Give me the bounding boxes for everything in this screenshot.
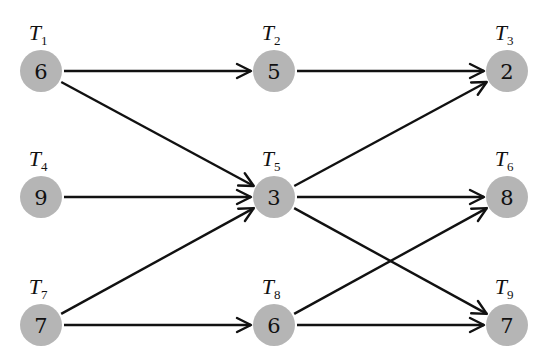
node-weight: 6	[267, 314, 280, 338]
node-label: T3	[495, 20, 514, 48]
node-t2: 5T2	[253, 20, 295, 92]
node-t5: 3T5	[253, 146, 295, 218]
node-label: T9	[495, 274, 514, 302]
edge-t1-t2	[64, 64, 251, 78]
node-label: T2	[262, 20, 281, 48]
node-weight: 7	[34, 314, 47, 338]
node-label: T7	[29, 274, 48, 302]
nodes-layer: 6T15T22T39T43T58T67T76T87T9	[20, 20, 528, 346]
node-label: T4	[29, 146, 48, 174]
node-t1: 6T1	[20, 20, 62, 92]
node-weight: 9	[34, 186, 47, 210]
edge-t4-t5	[64, 190, 251, 204]
node-label: T8	[262, 274, 281, 302]
node-t8: 6T8	[253, 274, 295, 346]
node-label: T1	[29, 20, 48, 48]
node-weight: 5	[267, 60, 280, 84]
edge-t8-t9	[297, 318, 484, 332]
node-t4: 9T4	[20, 146, 62, 218]
node-label: T6	[495, 146, 514, 174]
node-weight: 7	[500, 314, 513, 338]
edge-t7-t8	[64, 318, 251, 332]
node-weight: 2	[500, 60, 513, 84]
edge-t5-t6	[297, 190, 484, 204]
node-weight: 3	[267, 186, 280, 210]
edge-t7-t5	[61, 208, 254, 314]
node-t6: 8T6	[486, 146, 528, 218]
edge-t5-t3	[294, 82, 487, 186]
node-t7: 7T7	[20, 274, 62, 346]
task-graph: 6T15T22T39T43T58T67T76T87T9	[0, 0, 546, 357]
edge-line	[61, 208, 254, 314]
edge-t1-t5	[61, 82, 254, 186]
node-weight: 6	[34, 60, 47, 84]
node-t9: 7T9	[486, 274, 528, 346]
node-t3: 2T3	[486, 20, 528, 92]
edge-line	[61, 82, 254, 186]
edge-line	[294, 82, 487, 186]
node-weight: 8	[500, 186, 513, 210]
edge-t2-t3	[297, 64, 484, 78]
node-label: T5	[262, 146, 281, 174]
